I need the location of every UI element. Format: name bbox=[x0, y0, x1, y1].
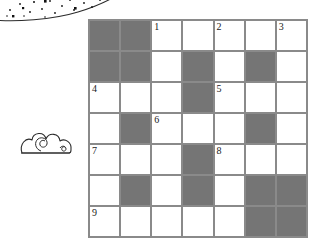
crossword-cell-open[interactable] bbox=[246, 21, 275, 50]
crossword-grid[interactable]: 123456789 bbox=[88, 19, 308, 238]
crossword-cell-blocked bbox=[121, 52, 150, 81]
crossword-cell-blocked bbox=[183, 176, 212, 205]
spiral-cloud-doodle bbox=[18, 128, 78, 158]
crossword-cell-blocked bbox=[246, 207, 275, 236]
crossword-cell-open[interactable] bbox=[152, 52, 181, 81]
crossword-cell-number: 2 bbox=[217, 21, 222, 32]
crossword-cell-open[interactable]: 2 bbox=[215, 21, 244, 50]
crossword-cell-blocked bbox=[121, 176, 150, 205]
crossword-cell-open[interactable]: 5 bbox=[215, 83, 244, 112]
crossword-cell-open[interactable] bbox=[215, 52, 244, 81]
crossword-cell-open[interactable] bbox=[183, 21, 212, 50]
crossword-cell-blocked bbox=[277, 176, 306, 205]
crossword-cell-blocked bbox=[121, 21, 150, 50]
crossword-cell-open[interactable] bbox=[152, 83, 181, 112]
crossword-cell-number: 1 bbox=[154, 21, 159, 32]
crossword-cell-blocked bbox=[183, 83, 212, 112]
crossword-cell-open[interactable]: 3 bbox=[277, 21, 306, 50]
crossword-cell-blocked bbox=[183, 145, 212, 174]
crossword-cell-open[interactable] bbox=[215, 114, 244, 143]
crossword-cell-number: 9 bbox=[92, 207, 97, 218]
crossword-cell-blocked bbox=[246, 176, 275, 205]
crossword-cell-open[interactable] bbox=[246, 145, 275, 174]
crossword-cell-number: 6 bbox=[154, 114, 159, 125]
crossword-cell-open[interactable]: 1 bbox=[152, 21, 181, 50]
crossword-cell-number: 5 bbox=[217, 83, 222, 94]
crossword-cell-blocked bbox=[90, 52, 119, 81]
crossword-cell-blocked bbox=[246, 52, 275, 81]
crossword-cell-open[interactable] bbox=[90, 176, 119, 205]
crossword-cell-open[interactable] bbox=[121, 207, 150, 236]
crossword-cell-open[interactable] bbox=[277, 114, 306, 143]
crossword-cell-number: 4 bbox=[92, 83, 97, 94]
crossword-cell-open[interactable] bbox=[277, 83, 306, 112]
crossword-cell-open[interactable] bbox=[183, 207, 212, 236]
crossword-cell-open[interactable] bbox=[277, 145, 306, 174]
crossword-cell-blocked bbox=[183, 52, 212, 81]
crossword-cell-open[interactable]: 8 bbox=[215, 145, 244, 174]
crossword-cell-open[interactable] bbox=[215, 176, 244, 205]
crossword-cell-blocked bbox=[121, 114, 150, 143]
crossword-cell-number: 3 bbox=[279, 21, 284, 32]
crossword-cell-open[interactable] bbox=[183, 114, 212, 143]
crossword-cell-blocked bbox=[277, 207, 306, 236]
crossword-cell-open[interactable] bbox=[121, 83, 150, 112]
crossword-cell-open[interactable] bbox=[215, 207, 244, 236]
crossword-cell-open[interactable]: 4 bbox=[90, 83, 119, 112]
crossword-cell-open[interactable] bbox=[121, 145, 150, 174]
crossword-cell-open[interactable]: 7 bbox=[90, 145, 119, 174]
crossword-cell-open[interactable]: 9 bbox=[90, 207, 119, 236]
crossword-cell-number: 8 bbox=[217, 145, 222, 156]
crossword-cell-open[interactable] bbox=[152, 207, 181, 236]
crossword-cell-blocked bbox=[246, 114, 275, 143]
crossword-cell-open[interactable] bbox=[152, 176, 181, 205]
crossword-cell-open[interactable] bbox=[152, 145, 181, 174]
crossword-cell-open[interactable] bbox=[277, 52, 306, 81]
crossword-cell-number: 7 bbox=[92, 145, 97, 156]
crossword-cell-open[interactable]: 6 bbox=[152, 114, 181, 143]
crossword-cell-blocked bbox=[90, 21, 119, 50]
crossword-cell-open[interactable] bbox=[246, 83, 275, 112]
crossword-cell-open[interactable] bbox=[90, 114, 119, 143]
